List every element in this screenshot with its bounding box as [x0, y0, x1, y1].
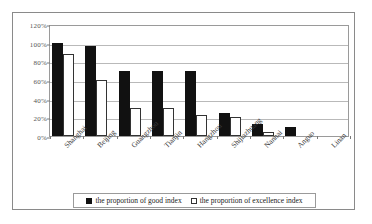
y-tick-label: 0%	[37, 135, 47, 142]
y-tick-label: 20%	[34, 116, 47, 123]
x-tick-mark	[317, 136, 318, 139]
x-tick-mark	[217, 136, 218, 139]
bar[interactable]	[85, 46, 96, 136]
x-tick-mark	[117, 136, 118, 139]
x-tick-mark	[150, 136, 151, 139]
legend-entry[interactable]: the proportion of good index	[86, 197, 181, 205]
bar-group	[50, 26, 83, 136]
bar[interactable]	[63, 54, 74, 136]
chart-frame: 0%20%40%60%80%100%120% ShanghaiBeijingGu…	[12, 12, 355, 210]
bar[interactable]	[52, 43, 63, 136]
bar[interactable]	[285, 127, 296, 136]
bar-group	[83, 26, 116, 136]
bar[interactable]	[185, 71, 196, 136]
x-tick-mark	[250, 136, 251, 139]
bar[interactable]	[96, 80, 107, 136]
bar-group	[117, 26, 150, 136]
hollow-square-icon	[191, 198, 197, 204]
x-tick-mark	[283, 136, 284, 139]
bar-group	[217, 26, 250, 136]
x-tick-mark	[50, 136, 51, 139]
y-tick-label: 100%	[30, 41, 47, 48]
legend-label: the proportion of good index	[95, 197, 181, 205]
y-tick-label: 80%	[34, 60, 47, 67]
x-tick-mark	[350, 136, 351, 139]
y-tick-label: 40%	[34, 97, 47, 104]
y-tick-label: 60%	[34, 79, 47, 86]
bar-group	[183, 26, 216, 136]
chart-legend: the proportion of good indexthe proporti…	[73, 193, 316, 208]
bar-group	[283, 26, 316, 136]
x-tick-mark	[183, 136, 184, 139]
legend-label: the proportion of excellence index	[200, 197, 303, 205]
plot-area: 0%20%40%60%80%100%120%	[49, 25, 349, 137]
y-tick-label: 120%	[30, 23, 47, 30]
legend-entry[interactable]: the proportion of excellence index	[191, 197, 303, 205]
x-tick-mark	[83, 136, 84, 139]
bar[interactable]	[119, 71, 130, 136]
filled-square-icon	[86, 198, 92, 204]
bar-group	[317, 26, 350, 136]
